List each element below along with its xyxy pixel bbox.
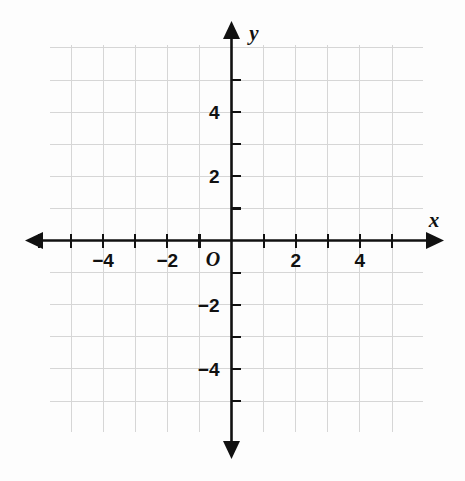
- origin-label: O: [206, 248, 220, 270]
- y-tick-label: −2: [198, 295, 220, 316]
- graph-canvas: −4−224 42−2−4 O x y: [0, 0, 465, 481]
- y-tick-label: 4: [209, 102, 220, 123]
- y-tick-label: 2: [209, 166, 220, 187]
- coordinate-plane: −4−224 42−2−4 O x y: [0, 0, 465, 481]
- x-tick-label: 4: [355, 250, 366, 271]
- x-tick-label: −2: [156, 250, 178, 271]
- x-tick-label: −4: [92, 250, 114, 271]
- x-axis-label: x: [428, 208, 440, 232]
- y-tick-label: −4: [198, 359, 220, 380]
- x-tick-label: 2: [290, 250, 301, 271]
